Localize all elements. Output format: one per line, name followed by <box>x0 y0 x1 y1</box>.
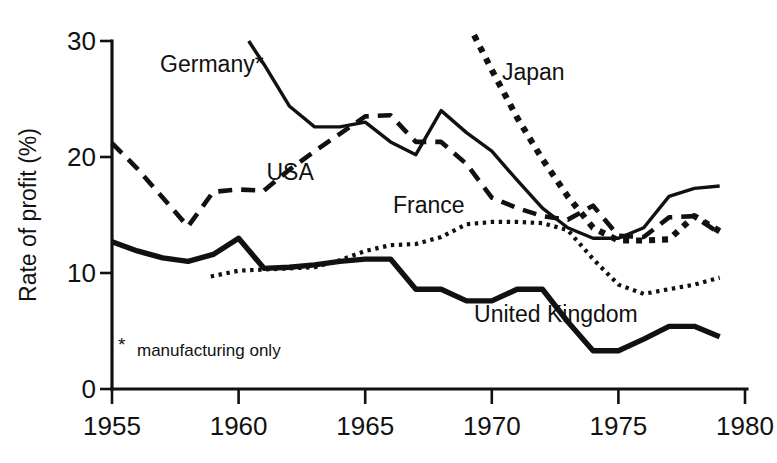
x-tick-label: 1955 <box>83 411 141 441</box>
series-line-united-kingdom <box>112 238 720 351</box>
series-line-usa <box>112 115 720 237</box>
x-tick-label: 1965 <box>336 411 394 441</box>
footnote-star-icon: * <box>118 334 126 355</box>
y-tick-marks <box>100 41 112 389</box>
rate-of-profit-chart: 0102030 195519601965197019751980 Rate of… <box>0 0 777 463</box>
footnote-text: manufacturing only <box>137 341 281 360</box>
y-axis-title: Rate of profit (%) <box>15 128 41 302</box>
y-axis-tick-labels: 0102030 <box>67 26 96 404</box>
series-line-germany <box>249 41 720 238</box>
chart-svg: 0102030 195519601965197019751980 Rate of… <box>0 0 777 463</box>
y-tick-label: 30 <box>67 26 96 56</box>
x-tick-label: 1975 <box>589 411 647 441</box>
series-label-united-kingdom: United Kingdom <box>474 301 638 327</box>
series-line-france <box>211 222 720 294</box>
series-label-germany: Germany* <box>160 51 264 77</box>
y-tick-label: 0 <box>82 374 96 404</box>
series-label-usa: USA <box>266 159 314 185</box>
x-tick-marks <box>112 389 745 404</box>
x-tick-label: 1980 <box>716 411 774 441</box>
series-label-france: France <box>393 192 465 218</box>
y-tick-label: 20 <box>67 142 96 172</box>
x-tick-label: 1970 <box>463 411 521 441</box>
series-label-japan: Japan <box>502 59 565 85</box>
x-tick-label: 1960 <box>210 411 268 441</box>
x-axis-tick-labels: 195519601965197019751980 <box>83 411 774 441</box>
y-tick-label: 10 <box>67 258 96 288</box>
